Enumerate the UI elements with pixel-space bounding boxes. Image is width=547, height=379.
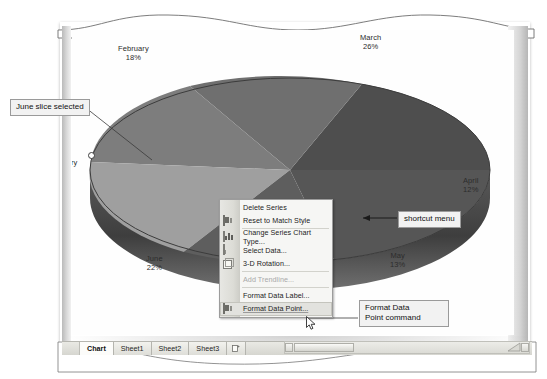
selection-handle[interactable]	[88, 152, 95, 159]
page-left-edge	[62, 26, 71, 342]
callout-line-2: Point command	[365, 313, 421, 322]
scrollbar-thumb[interactable]	[294, 343, 354, 352]
sheet-tab-area[interactable]: Chart Sheet1 Sheet2 Sheet3	[62, 338, 532, 354]
callout-format-data-point: Format Data Point command	[359, 300, 449, 327]
menu-item-select-data[interactable]: Select Data...	[220, 244, 332, 257]
screenshot-root: February18% March26% January9% April12% …	[0, 0, 547, 379]
format-point-icon	[223, 304, 233, 314]
menu-item-label: Delete Series	[243, 203, 287, 212]
callout-shortcut-menu: shortcut menu	[398, 211, 461, 228]
menu-item-add-trendline: Add Trendline...	[220, 273, 332, 286]
resize-grip-icon[interactable]	[506, 337, 522, 353]
menu-item-label: Add Trendline...	[243, 275, 294, 284]
menu-item-label: 3-D Rotation...	[243, 259, 290, 268]
menu-item-format-data-point[interactable]: Format Data Point...	[220, 302, 332, 315]
menu-separator	[242, 287, 329, 288]
menu-item-label: Select Data...	[243, 246, 287, 255]
callout-line-1: Format Data	[365, 303, 409, 312]
horizontal-scrollbar[interactable]	[284, 341, 530, 354]
menu-item-format-data-label[interactable]: Format Data Label...	[220, 289, 332, 302]
insert-worksheet-icon[interactable]	[227, 342, 246, 355]
callout-june-slice-selected: June slice selected	[10, 99, 90, 116]
select-data-icon	[223, 245, 233, 255]
sheet-tab-chart[interactable]: Chart	[80, 342, 114, 355]
shortcut-menu[interactable]: Delete Series Reset to Match Style Chang…	[219, 199, 333, 318]
sheet-tab-sheet3[interactable]: Sheet3	[189, 342, 227, 355]
sheet-tab-sheet2[interactable]: Sheet2	[152, 342, 190, 355]
data-label-january: January9%	[72, 158, 77, 176]
tab-nav-buttons[interactable]	[62, 342, 80, 355]
menu-item-label: Format Data Point...	[243, 304, 308, 313]
data-label-may: May13%	[390, 251, 405, 269]
chart-type-icon	[223, 232, 233, 242]
menu-item-reset-to-match-style[interactable]: Reset to Match Style	[220, 214, 332, 227]
menu-separator	[242, 271, 329, 272]
scroll-right-arrow-icon[interactable]	[521, 343, 529, 352]
data-label-april: April12%	[463, 176, 479, 194]
mouse-cursor	[306, 316, 317, 331]
menu-item-3d-rotation[interactable]: 3-D Rotation...	[220, 257, 332, 270]
data-label-june: June22%	[146, 254, 163, 272]
reset-style-icon	[223, 216, 233, 226]
rotation-icon	[223, 258, 233, 268]
menu-item-change-series-chart-type[interactable]: Change Series Chart Type...	[220, 230, 332, 243]
menu-item-label: Reset to Match Style	[243, 216, 310, 225]
sheet-tab-sheet1[interactable]: Sheet1	[114, 342, 152, 355]
menu-item-label: Format Data Label...	[243, 291, 310, 300]
data-label-march: March26%	[360, 33, 381, 51]
menu-item-delete-series[interactable]: Delete Series	[220, 201, 332, 214]
scroll-left-arrow-icon[interactable]	[285, 343, 293, 352]
data-label-february: February18%	[118, 44, 149, 62]
